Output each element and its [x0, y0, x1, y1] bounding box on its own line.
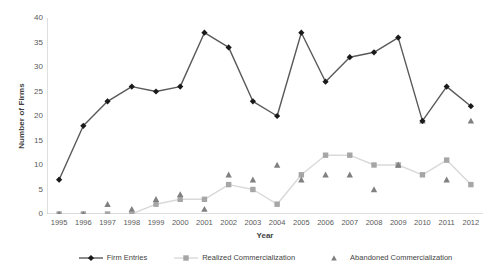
data-point: [104, 201, 110, 207]
x-tick-label: 2005: [293, 218, 310, 228]
data-point: [347, 172, 353, 178]
y-tick-label: 25: [25, 88, 43, 96]
data-point: [395, 35, 401, 41]
data-point: [153, 202, 158, 207]
x-tick-label: 1996: [75, 218, 92, 228]
x-tick-label: 1998: [123, 218, 140, 228]
x-tick-label: 2009: [390, 218, 407, 228]
x-tick-label: 2004: [269, 218, 286, 228]
x-tick-label: 2010: [414, 218, 431, 228]
legend-label: Abandoned Commercialization: [350, 253, 452, 263]
data-point: [225, 172, 231, 178]
legend-item-realized-commercialization[interactable]: Realized Commercialization: [173, 253, 295, 263]
data-point: [201, 206, 207, 212]
y-tick-label: 0: [25, 210, 43, 218]
data-point: [178, 197, 183, 202]
data-point: [177, 84, 183, 90]
data-point: [226, 182, 231, 187]
data-point: [153, 196, 159, 202]
series-line-realized-commercialization: [59, 155, 471, 214]
line-chart: Number of Firms 0510152025303540 1995199…: [0, 0, 493, 274]
data-point: [443, 177, 449, 183]
legend-swatch-square-icon: [173, 253, 199, 263]
axis-lines: [47, 18, 483, 214]
data-point: [201, 30, 207, 36]
x-tick-label: 2001: [196, 218, 213, 228]
data-point: [468, 118, 474, 124]
legend-label: Firm Entries: [107, 253, 147, 263]
x-tick-label: 1999: [148, 218, 165, 228]
x-tick-label: 2006: [317, 218, 334, 228]
data-point: [371, 162, 376, 167]
data-point: [202, 197, 207, 202]
x-axis-title: Year: [47, 231, 483, 241]
data-point: [274, 202, 279, 207]
data-point: [226, 44, 232, 50]
y-tick-label: 20: [25, 112, 43, 120]
y-tick-label: 15: [25, 137, 43, 145]
data-point: [298, 30, 304, 36]
x-tick-label: 2002: [220, 218, 237, 228]
data-point: [250, 177, 256, 183]
data-point: [347, 153, 352, 158]
legend-item-abandoned-commercialization[interactable]: Abandoned Commercialization: [321, 253, 452, 263]
series-markers-abandoned-commercialization: [56, 118, 474, 214]
data-point: [420, 172, 425, 177]
series-line-firm-entries: [59, 33, 471, 180]
plot-area: [47, 18, 483, 214]
y-tick-label: 30: [25, 63, 43, 71]
data-point: [56, 177, 62, 183]
x-tick-label: 2012: [463, 218, 480, 228]
data-point: [129, 206, 135, 212]
x-tick-label: 2011: [439, 218, 455, 228]
x-tick-label: 2000: [172, 218, 189, 228]
data-point: [105, 211, 110, 214]
x-tick-label: 1997: [99, 218, 116, 228]
y-tick-label: 40: [25, 14, 43, 22]
chart-legend: Firm EntriesRealized CommercializationAb…: [47, 250, 483, 266]
data-point: [274, 162, 280, 168]
series-markers-firm-entries: [56, 30, 474, 183]
data-point: [274, 113, 280, 119]
y-tick-label: 35: [25, 39, 43, 47]
legend-swatch-triangle-icon: [321, 253, 347, 263]
x-axis-tick-labels: 1995199619971998199920002001200220032004…: [47, 218, 483, 230]
x-tick-label: 2007: [341, 218, 358, 228]
y-tick-label: 10: [25, 161, 43, 169]
x-tick-label: 2008: [366, 218, 383, 228]
series-markers-realized-commercialization: [56, 153, 473, 215]
data-point: [129, 84, 135, 90]
data-point: [371, 49, 377, 55]
legend-item-firm-entries[interactable]: Firm Entries: [78, 253, 147, 263]
data-point: [153, 88, 159, 94]
y-tick-label: 5: [25, 186, 43, 194]
data-point: [371, 186, 377, 192]
x-tick-label: 2003: [245, 218, 262, 228]
legend-label: Realized Commercialization: [202, 253, 295, 263]
data-point: [444, 157, 449, 162]
legend-swatch-diamond-icon: [78, 253, 104, 263]
data-point: [250, 98, 256, 104]
y-axis-tick-labels: 0510152025303540: [25, 18, 43, 214]
data-point: [322, 172, 328, 178]
data-point: [250, 187, 255, 192]
plot-svg: [47, 18, 483, 214]
data-point: [468, 182, 473, 187]
data-point: [177, 191, 183, 197]
data-point: [323, 153, 328, 158]
x-tick-label: 1995: [51, 218, 68, 228]
